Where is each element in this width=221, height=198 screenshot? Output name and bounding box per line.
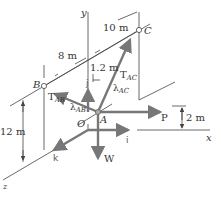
point-a-label: A [100, 115, 107, 125]
dim-10m-label: 10 m [103, 23, 128, 33]
point-b-marker [41, 83, 46, 88]
point-o-label: O [77, 119, 85, 129]
y-axis-label: y [81, 8, 87, 18]
point-c-label: C [144, 26, 152, 36]
lambda-ac-label: λAC [113, 84, 129, 95]
dim-1-2m-label: 1.2 m [90, 63, 119, 73]
t-ac-label: TAC [120, 70, 137, 82]
k-arrow [54, 130, 88, 150]
lambda-ab-label: λAB [70, 103, 86, 114]
dim-8m-label: 8 m [58, 51, 77, 61]
t-ab-label: TAB [48, 92, 65, 104]
i-label: i [126, 136, 129, 145]
w-label: W [104, 154, 114, 164]
point-b-label: B [33, 80, 40, 90]
x-axis-label: x [206, 133, 212, 143]
k-label: k [53, 154, 58, 163]
dim-12m-label: 12 m [0, 127, 25, 137]
point-c-marker [136, 27, 141, 32]
j-label: j [86, 79, 89, 88]
p-label: P [161, 113, 168, 123]
dim-2m-label: 2 m [186, 113, 205, 123]
z-axis-label: z [3, 183, 7, 191]
